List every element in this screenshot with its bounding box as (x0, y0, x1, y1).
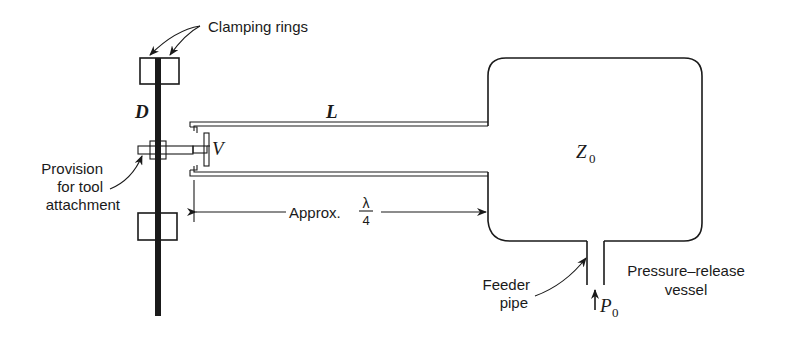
diaphragm (155, 58, 161, 316)
symbol-z-sub: 0 (589, 151, 596, 166)
symbol-v: V (212, 138, 226, 159)
pressure-release-vessel (488, 58, 702, 241)
symbol-p-sub: 0 (612, 305, 619, 320)
symbol-p0: P 0 (599, 295, 619, 320)
provision-leader (110, 156, 142, 189)
label-lambda: λ (363, 195, 370, 211)
label-clamping-rings: Clamping rings (208, 18, 308, 35)
label-feeder-1: Feeder (482, 276, 530, 293)
symbol-l: L (325, 101, 338, 122)
clamping-rings-leaders (150, 26, 200, 55)
label-provision-2: for tool (57, 178, 103, 195)
symbol-p: P (599, 295, 612, 316)
label-provision-3: attachment (46, 196, 121, 213)
acoustic-transducer-diagram: Clamping rings Provision for tool attach… (0, 0, 793, 340)
symbol-d: D (134, 101, 149, 122)
tube-l (190, 122, 488, 176)
label-vessel-2: vessel (665, 281, 708, 298)
label-approx: Approx. (289, 204, 341, 221)
tool-attachment-rod (138, 141, 207, 159)
label-provision-1: Provision (41, 160, 103, 177)
symbol-z: Z (576, 141, 587, 162)
label-vessel-1: Pressure–release (627, 262, 745, 279)
feeder-pipe (587, 241, 604, 285)
symbol-z0: Z 0 (576, 141, 596, 166)
label-four: 4 (362, 213, 369, 228)
label-feeder-2: pipe (500, 294, 528, 311)
feeder-leader (535, 258, 586, 296)
